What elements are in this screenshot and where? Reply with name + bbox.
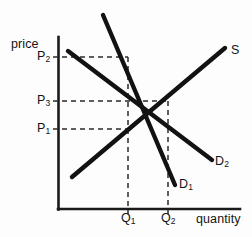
quantity-tick-q2-text: Q [161,211,171,225]
curve-label-d1-text: D [179,177,188,191]
curve-label-d2-sub: 2 [224,159,229,169]
y-axis-label: price [11,38,39,51]
curve-label-d2-text: D [215,154,224,168]
demand-curve-d2 [68,51,212,160]
figure-canvas [0,0,252,237]
price-tick-p2-sub: 2 [45,54,50,64]
price-tick-p2: P2 [37,50,50,63]
curve-label-d2: D2 [215,155,229,168]
quantity-tick-q2-sub: 2 [171,216,176,226]
price-tick-p1-sub: 1 [45,126,50,136]
curve-label-s: S [231,44,239,57]
quantity-tick-q1: Q1 [121,212,136,225]
quantity-guide-group [128,57,168,214]
quantity-tick-q2: Q2 [161,212,176,225]
curves-group [68,15,225,185]
x-axis-label: quantity [196,213,241,226]
price-tick-p1: P1 [37,122,50,135]
price-tick-p3: P3 [37,94,50,107]
curve-label-s-text: S [231,43,239,57]
curve-label-d1-sub: 1 [188,182,193,192]
curve-label-d1: D1 [179,178,193,191]
quantity-tick-q1-sub: 1 [131,216,136,226]
quantity-tick-q1-text: Q [121,211,131,225]
supply-demand-figure: price quantity P2 P3 P1 Q1 Q2 S D1 D2 [0,0,252,237]
supply-curve-s [72,48,225,177]
price-tick-p3-sub: 3 [45,98,50,108]
price-guide-group [53,57,168,129]
